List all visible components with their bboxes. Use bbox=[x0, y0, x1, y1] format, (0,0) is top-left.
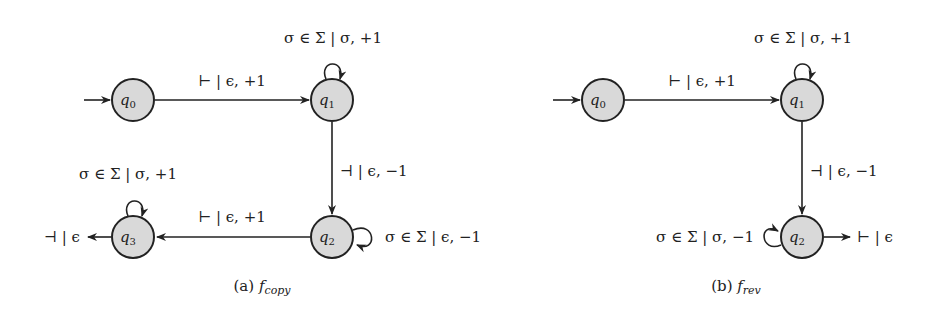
self-loop-q1 bbox=[795, 64, 811, 79]
state-q1: q1 bbox=[311, 79, 353, 121]
self-loop-q1 bbox=[325, 64, 341, 79]
edge-label-q3-loop: σ ∈ Σ | σ, +1 bbox=[79, 165, 177, 183]
diagram-copy: ⊢ | ϵ, +1 σ ∈ Σ | σ, +1 ⊣ | ϵ, −1 σ ∈ Σ … bbox=[44, 29, 481, 297]
figure-canvas: ⊢ | ϵ, +1 σ ∈ Σ | σ, +1 ⊣ | ϵ, −1 σ ∈ Σ … bbox=[0, 0, 932, 313]
edge-label-q1-loop: σ ∈ Σ | σ, +1 bbox=[284, 29, 382, 47]
edge-label-q2-q3: ⊢ | ϵ, +1 bbox=[198, 208, 266, 226]
edge-label-q1-q2: ⊣ | ϵ, −1 bbox=[340, 162, 408, 180]
state-q2: q2 bbox=[311, 216, 353, 258]
edge-label-q0-q1: ⊢ | ϵ, +1 bbox=[198, 72, 266, 90]
edge-label-q2-out: ⊢ | ϵ bbox=[857, 228, 893, 246]
diagram-rev: ⊢ | ϵ, +1 σ ∈ Σ | σ, +1 ⊣ | ϵ, −1 σ ∈ Σ … bbox=[553, 29, 893, 297]
state-q0: q0 bbox=[582, 79, 624, 121]
edge-label-q0-q1: ⊢ | ϵ, +1 bbox=[668, 72, 736, 90]
state-q2: q2 bbox=[781, 216, 823, 258]
self-loop-q2 bbox=[764, 229, 781, 247]
self-loop-q3 bbox=[127, 201, 143, 216]
state-q1: q1 bbox=[781, 79, 823, 121]
edge-label-q2-loop: σ ∈ Σ | σ, −1 bbox=[656, 228, 754, 246]
edge-label-q1-loop: σ ∈ Σ | σ, +1 bbox=[754, 29, 852, 47]
state-q0: q0 bbox=[112, 79, 154, 121]
caption-copy: (a) fcopy bbox=[233, 277, 291, 297]
edge-label-q1-q2: ⊣ | ϵ, −1 bbox=[810, 162, 878, 180]
edge-label-q3-out: ⊣ | ϵ bbox=[44, 228, 80, 246]
edge-label-q2-loop: σ ∈ Σ | ϵ, −1 bbox=[385, 228, 481, 246]
self-loop-q2 bbox=[353, 228, 372, 246]
caption-rev: (b) frev bbox=[711, 277, 761, 297]
state-q3: q3 bbox=[112, 216, 154, 258]
